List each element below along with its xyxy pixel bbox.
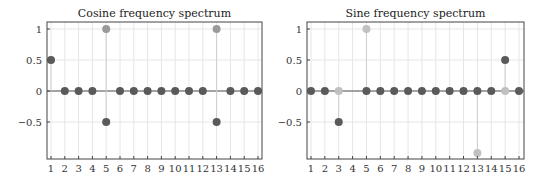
x-tick-label: 11 (183, 163, 196, 174)
data-point-spectrum (213, 118, 221, 126)
data-point-spectrum-reference (501, 87, 509, 95)
data-point-spectrum (130, 87, 138, 95)
x-tick-label: 1 (48, 163, 54, 174)
x-tick-label: 15 (238, 163, 251, 174)
data-point-spectrum (515, 87, 523, 95)
x-tick-label: 10 (169, 163, 182, 174)
x-tick-label: 7 (131, 163, 137, 174)
data-point-spectrum (376, 87, 384, 95)
x-tick-label: 14 (224, 163, 237, 174)
x-tick-label: 12 (457, 163, 470, 174)
chart-canvas: Cosine frequency spectrum10.50−0.5123456… (0, 0, 548, 181)
data-point-spectrum (116, 87, 124, 95)
data-point-spectrum (446, 87, 454, 95)
x-tick-label: 2 (322, 163, 328, 174)
x-tick-label: 11 (443, 163, 456, 174)
data-point-spectrum (75, 87, 83, 95)
data-point-spectrum-reference (473, 149, 481, 157)
data-point-spectrum (157, 87, 165, 95)
y-tick-label: 0 (296, 86, 302, 97)
x-tick-label: 3 (336, 163, 342, 174)
y-tick-label: 0.5 (286, 55, 302, 66)
y-tick-label: 1 (296, 24, 302, 35)
data-point-spectrum-reference (213, 25, 221, 33)
x-tick-label: 13 (210, 163, 223, 174)
data-point-spectrum-reference (335, 87, 343, 95)
x-tick-label: 8 (144, 163, 150, 174)
data-point-spectrum (404, 87, 412, 95)
sine-spectrum-panel: Sine frequency spectrum10.50−0.512345678… (278, 7, 526, 174)
data-point-spectrum (47, 56, 55, 64)
data-point-spectrum (418, 87, 426, 95)
x-tick-label: 6 (117, 163, 123, 174)
x-tick-label: 1 (308, 163, 314, 174)
data-point-spectrum (199, 87, 207, 95)
x-tick-label: 5 (103, 163, 109, 174)
x-tick-label: 16 (252, 163, 265, 174)
data-point-spectrum (487, 87, 495, 95)
x-tick-label: 4 (349, 163, 355, 174)
data-point-spectrum (501, 56, 509, 64)
data-point-spectrum-reference (362, 25, 370, 33)
data-point-spectrum (390, 87, 398, 95)
data-point-spectrum-reference (102, 25, 110, 33)
x-tick-label: 13 (471, 163, 484, 174)
x-tick-label: 7 (391, 163, 397, 174)
x-tick-label: 16 (513, 163, 526, 174)
data-point-spectrum (321, 87, 329, 95)
x-tick-label: 4 (89, 163, 95, 174)
data-point-spectrum (254, 87, 262, 95)
data-point-spectrum (144, 87, 152, 95)
x-tick-label: 5 (363, 163, 369, 174)
data-point-spectrum (240, 87, 248, 95)
x-tick-label: 8 (405, 163, 411, 174)
chart-title: Cosine frequency spectrum (78, 7, 232, 20)
x-tick-label: 15 (499, 163, 512, 174)
data-point-spectrum (460, 87, 468, 95)
data-point-spectrum (335, 118, 343, 126)
chart-title: Sine frequency spectrum (345, 7, 486, 20)
data-point-spectrum (362, 87, 370, 95)
data-point-spectrum (171, 87, 179, 95)
x-tick-label: 6 (377, 163, 383, 174)
data-point-spectrum (307, 87, 315, 95)
y-tick-label: −0.5 (18, 117, 42, 128)
data-point-spectrum (88, 87, 96, 95)
x-tick-label: 12 (196, 163, 209, 174)
x-tick-label: 10 (429, 163, 442, 174)
y-tick-label: 1 (36, 24, 42, 35)
x-tick-label: 14 (485, 163, 498, 174)
data-point-spectrum (473, 87, 481, 95)
data-point-spectrum (432, 87, 440, 95)
data-point-spectrum (185, 87, 193, 95)
y-tick-label: 0 (36, 86, 42, 97)
y-tick-label: −0.5 (278, 117, 302, 128)
x-tick-label: 9 (419, 163, 425, 174)
x-tick-label: 2 (62, 163, 68, 174)
x-tick-label: 9 (158, 163, 164, 174)
data-point-spectrum (61, 87, 69, 95)
data-point-spectrum (102, 118, 110, 126)
data-point-spectrum (226, 87, 234, 95)
y-tick-label: 0.5 (26, 55, 42, 66)
x-tick-label: 3 (75, 163, 81, 174)
cosine-spectrum-panel: Cosine frequency spectrum10.50−0.5123456… (18, 7, 265, 174)
